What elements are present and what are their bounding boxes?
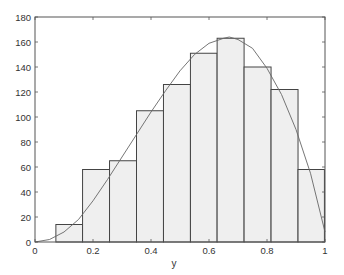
histogram-bar xyxy=(137,111,164,242)
histogram-bar xyxy=(110,161,137,242)
histogram-bar xyxy=(298,170,324,243)
y-tick-label: 0 xyxy=(26,237,31,248)
y-tick-label: 100 xyxy=(15,112,31,123)
x-tick-label: 0.2 xyxy=(86,245,99,256)
histogram-bar xyxy=(244,67,271,242)
histogram-bar xyxy=(271,90,298,243)
y-tick-label: 140 xyxy=(15,62,31,73)
y-tick-label: 180 xyxy=(15,12,31,23)
x-axis-label: y xyxy=(172,258,177,269)
y-tick-label: 80 xyxy=(20,137,31,148)
x-tick-label: 0.4 xyxy=(144,245,157,256)
histogram-bar xyxy=(163,85,190,243)
x-tick-label: 0.8 xyxy=(260,245,273,256)
x-tick-label: 1 xyxy=(322,245,327,256)
histogram-bar xyxy=(83,170,110,243)
x-tick-label: 0 xyxy=(32,245,37,256)
y-tick-label: 160 xyxy=(15,37,31,48)
y-tick-label: 120 xyxy=(15,87,31,98)
histogram-bars xyxy=(56,38,325,242)
histogram-bar xyxy=(217,38,244,242)
histogram-bar xyxy=(190,53,217,242)
y-tick-label: 20 xyxy=(20,212,31,223)
y-tick-label: 40 xyxy=(20,187,31,198)
histogram-chart: 020406080100120140160180 00.20.40.60.81 … xyxy=(0,0,344,275)
y-tick-label: 60 xyxy=(20,162,31,173)
x-tick-label: 0.6 xyxy=(202,245,215,256)
